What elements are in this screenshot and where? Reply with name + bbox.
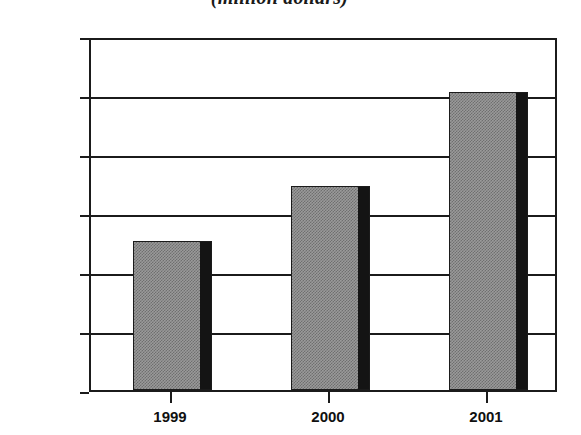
bar-shadow-2000 [358,187,369,389]
bar-shadow-1999 [200,242,211,389]
y-axis-tick [80,215,89,217]
y-axis-tick [80,333,89,335]
bar-2000 [291,186,370,390]
y-axis-tick [80,392,89,394]
bar-body-2000 [291,186,370,390]
x-axis-label-1999: 1999 [153,408,186,425]
bar-1999 [133,241,212,390]
x-axis-tick [328,392,330,403]
x-axis-label-2000: 2000 [311,408,344,425]
bar-2001 [449,92,528,390]
y-axis-tick [80,97,89,99]
y-axis-tick [80,274,89,276]
x-axis-tick [486,392,488,403]
y-axis-tick [80,38,89,40]
bar-shadow-2001 [516,93,527,389]
y-axis-tick [80,156,89,158]
bar-body-1999 [133,241,212,390]
bar-chart: (million dollars) 3,000 2,500 2,000 1,50… [0,0,581,435]
bar-body-2001 [449,92,528,390]
chart-title: (million dollars) [0,0,581,9]
plot-area [89,38,557,392]
x-axis-tick [170,392,172,403]
x-axis-label-2001: 2001 [469,408,502,425]
